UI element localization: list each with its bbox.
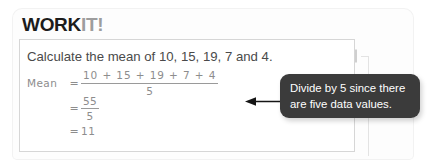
final-answer: 11 (81, 125, 96, 137)
equals-sign-1: = (67, 77, 81, 90)
callout-bubble: Divide by 5 since there are five data va… (280, 74, 420, 118)
page-title-accent: IT! (81, 14, 103, 35)
working-line-1: Mean = 10 + 15 + 19 + 7 + 4 5 (27, 70, 218, 96)
equals-sign-3: = (67, 125, 81, 138)
callout-text: Divide by 5 since there are five data va… (290, 80, 414, 112)
screenshot-root: WORKIT! Calculate the mean of 10, 15, 19… (0, 0, 442, 162)
fraction-2-numerator: 55 (81, 96, 99, 109)
callout-line-1: Divide by 5 since there (290, 80, 414, 96)
question-text: Calculate the mean of 10, 15, 19, 7 and … (27, 49, 273, 65)
working-line-3: = 11 (27, 121, 218, 141)
equals-sign-2: = (67, 102, 81, 115)
fraction-1: 10 + 15 + 19 + 7 + 4 5 (81, 70, 218, 96)
callout-line-2: are five data values. (290, 96, 414, 112)
mean-label: Mean (27, 77, 67, 89)
page-title-primary: WORK (22, 14, 81, 35)
working-line-2: = 55 5 (27, 96, 218, 121)
fraction-1-denominator: 5 (146, 84, 153, 97)
fraction-2-denominator: 5 (86, 109, 93, 122)
working-steps: Mean = 10 + 15 + 19 + 7 + 4 5 = 55 5 (27, 70, 218, 141)
fraction-1-numerator: 10 + 15 + 19 + 7 + 4 (81, 70, 218, 83)
page-title: WORKIT! (22, 14, 103, 36)
fraction-2: 55 5 (81, 96, 99, 122)
